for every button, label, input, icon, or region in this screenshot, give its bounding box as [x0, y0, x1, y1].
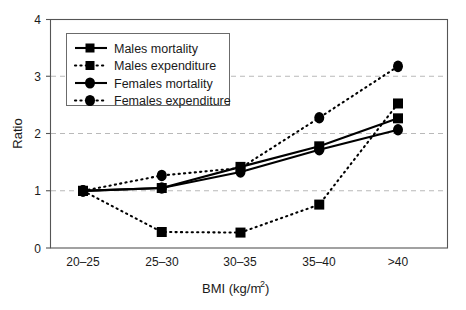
ratio-vs-bmi-line-chart: 4 3 2 1 0 Ratio 20–25 25–30 30–35 35–40 … — [0, 0, 466, 310]
x-tick-label-35-40: 35–40 — [302, 255, 336, 269]
x-axis-title-close: ) — [265, 281, 269, 296]
data-point-females-expenditure-30-35 — [236, 162, 246, 174]
data-point-females-expenditure-25-30 — [157, 170, 167, 182]
legend-label-females-mortality: Females mortality — [114, 77, 213, 91]
x-tick-label-30-35: 30–35 — [223, 255, 257, 269]
x-tick-label-25-30: 25–30 — [145, 255, 179, 269]
x-tick-label-20-25: 20–25 — [66, 255, 100, 269]
y-tick-label-4: 4 — [34, 13, 41, 27]
legend-label-females-expenditure: Females expenditure — [114, 94, 231, 108]
y-tick-label-2: 2 — [34, 127, 41, 141]
data-point-females-expenditure-20-25 — [78, 185, 88, 197]
legend-marker-square-males-mortality — [86, 44, 95, 53]
chart-figure: 4 3 2 1 0 Ratio 20–25 25–30 30–35 35–40 … — [0, 0, 466, 310]
legend-marker-circle-females-mortality — [85, 77, 95, 88]
chart-legend: Males mortality Males expenditure Female… — [67, 34, 231, 109]
legend-marker-circle-females-expenditure — [85, 95, 95, 106]
data-point-males-expenditure-25-30 — [157, 227, 167, 237]
x-tick-label-over-40: >40 — [388, 255, 409, 269]
y-tick-label-0: 0 — [34, 242, 41, 256]
data-point-males-expenditure-40 — [393, 98, 403, 108]
x-axis-title-base: BMI (kg/m — [202, 281, 261, 296]
data-point-females-mortality-25-30 — [157, 182, 167, 194]
data-point-females-mortality-35-40 — [314, 144, 324, 156]
y-tick-label-1: 1 — [34, 184, 41, 198]
data-point-males-mortality-40 — [393, 113, 403, 123]
data-point-males-expenditure-30-35 — [236, 228, 246, 238]
y-axis-title: Ratio — [10, 118, 25, 148]
legend-marker-square-males-expenditure — [86, 61, 95, 70]
data-point-males-expenditure-35-40 — [314, 200, 324, 210]
x-axis-title: BMI (kg/m 2 ) — [202, 279, 269, 296]
legend-label-males-mortality: Males mortality — [114, 42, 199, 56]
y-tick-label-3: 3 — [34, 70, 41, 84]
data-point-females-expenditure-40 — [393, 61, 403, 73]
data-point-females-mortality-40 — [393, 124, 403, 136]
legend-label-males-expenditure: Males expenditure — [114, 59, 216, 73]
data-point-females-expenditure-35-40 — [314, 112, 324, 124]
